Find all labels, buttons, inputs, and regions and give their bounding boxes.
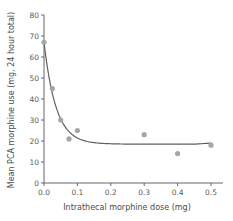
y-tick-label: 50 xyxy=(29,74,39,83)
chart-canvas: 010203040506070800.00.10.20.30.40.5 Intr… xyxy=(0,0,233,221)
data-point xyxy=(75,128,80,133)
data-point xyxy=(41,40,46,45)
axes: 010203040506070800.00.10.20.30.40.5 xyxy=(29,11,223,198)
y-tick-label: 60 xyxy=(29,53,39,62)
y-tick-label: 0 xyxy=(34,179,39,188)
data-point xyxy=(175,151,180,156)
x-tick-label: 0.0 xyxy=(38,188,50,197)
y-tick-label: 80 xyxy=(29,11,39,20)
y-tick-label: 20 xyxy=(29,137,39,146)
fit-line xyxy=(44,42,211,144)
x-tick-label: 0.3 xyxy=(138,188,150,197)
fitted-curve xyxy=(44,42,211,144)
y-tick-label: 40 xyxy=(29,95,39,104)
x-tick-label: 0.5 xyxy=(205,188,217,197)
data-point xyxy=(50,86,55,91)
y-tick-label: 30 xyxy=(29,116,39,125)
x-tick-label: 0.2 xyxy=(105,188,117,197)
y-tick-label: 70 xyxy=(29,32,39,41)
x-axis-title: Intrathecal morphine dose (mg) xyxy=(63,203,191,212)
data-point xyxy=(58,117,63,122)
data-point xyxy=(142,132,147,137)
chart: 010203040506070800.00.10.20.30.40.5 Intr… xyxy=(0,0,233,221)
y-axis-title: Mean PCA morphine use (mg, 24 hour total… xyxy=(7,12,16,188)
y-tick-label: 10 xyxy=(29,158,39,167)
data-point xyxy=(208,143,213,148)
data-points xyxy=(41,40,213,157)
x-tick-label: 0.4 xyxy=(172,188,184,197)
data-point xyxy=(66,136,71,141)
x-tick-label: 0.1 xyxy=(71,188,83,197)
